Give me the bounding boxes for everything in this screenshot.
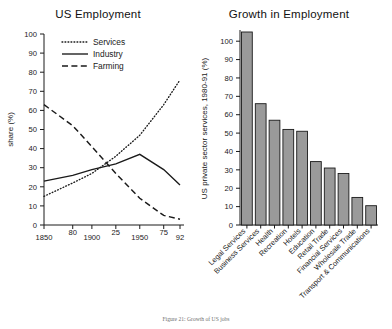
y-tick-label: 20 [29,183,37,192]
bar[interactable] [352,197,363,225]
bar[interactable] [242,32,253,225]
charts-row: US Employment 01020304050607080901001850… [0,0,392,310]
bar[interactable] [297,131,308,225]
bar[interactable] [311,162,322,225]
series-line-farming [44,105,180,220]
legend-label-industry: Industry [93,49,124,59]
y-tick-label: 80 [29,68,37,77]
bar[interactable] [366,206,377,225]
y-tick-label: 10 [225,202,233,211]
y-tick-label: 90 [225,55,233,64]
y-tick-label: 30 [29,163,37,172]
y-tick-label: 40 [29,144,37,153]
series-line-services [44,80,180,197]
figure-container: US Employment 01020304050607080901001850… [0,0,392,329]
y-axis-title: share (%) [6,112,15,147]
x-tick-label: 1850 [36,233,53,242]
y-tick-label: 60 [29,106,37,115]
x-tick-label: 1950 [131,233,148,242]
figure-caption: Figure 21: Growth of US jobs [0,316,392,322]
x-tick-label: 25 [112,228,120,237]
y-tick-label: 90 [29,49,37,58]
y-tick-label: 40 [225,147,233,156]
y-tick-label: 10 [29,202,37,211]
y-tick-label: 80 [225,74,233,83]
y-tick-label: 0 [33,221,37,230]
us-employment-plot: 0102030405060708090100185080190025195075… [0,0,196,310]
bar[interactable] [269,120,280,225]
y-tick-label: 100 [24,30,37,39]
bar[interactable] [283,129,294,225]
y-tick-label: 20 [225,184,233,193]
y-tick-label: 0 [229,221,233,230]
x-tick-label: 75 [159,228,167,237]
bar[interactable] [324,168,335,225]
chart-growth-in-employment: Growth in Employment 0102030405060708090… [196,0,392,310]
x-tick-label: 92 [176,233,184,242]
y-tick-label: 50 [29,125,37,134]
bar[interactable] [338,174,349,225]
chart-us-employment: US Employment 01020304050607080901001850… [0,0,196,310]
legend-label-services: Services [93,37,125,47]
y-axis-title: US private sector services, 1980-91 (%) [200,57,209,199]
legend-label-farming: Farming [93,61,124,71]
y-tick-label: 100 [220,37,233,46]
y-tick-label: 50 [225,129,233,138]
y-tick-label: 60 [225,110,233,119]
growth-in-employment-plot: 0102030405060708090100US private sector … [196,0,392,310]
x-tick-label: 80 [69,228,77,237]
y-tick-label: 30 [225,166,233,175]
x-tick-label: 1900 [83,233,100,242]
y-tick-label: 70 [29,87,37,96]
y-tick-label: 70 [225,92,233,101]
bar[interactable] [255,104,266,225]
